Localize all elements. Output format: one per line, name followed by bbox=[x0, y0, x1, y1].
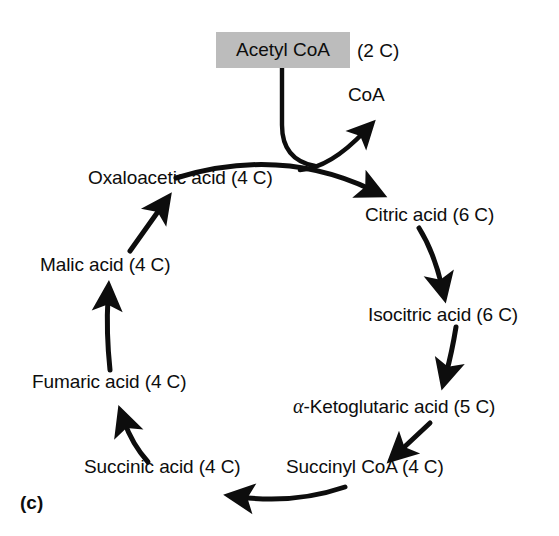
krebs-cycle-figure: Acetyl CoA (2 C) CoA Citric acid (6 C) I… bbox=[0, 0, 559, 536]
acetyl-coa-label: Acetyl CoA bbox=[216, 32, 350, 68]
acetyl-coa-box: Acetyl CoA bbox=[216, 32, 350, 68]
node-alpha-ketoglutaric-acid: α-Ketoglutaric acid (5 C) bbox=[293, 396, 495, 416]
node-alpha-ketoglutaric-acid-text: -Ketoglutaric acid (5 C) bbox=[303, 396, 495, 417]
node-oxaloacetic-acid: Oxaloacetic acid (4 C) bbox=[88, 168, 273, 187]
node-succinic-acid: Succinic acid (4 C) bbox=[84, 457, 240, 476]
arrow-citric-to-isocitric bbox=[419, 228, 442, 287]
arrow-fumaric-to-malic bbox=[107, 297, 110, 370]
node-isocitric-acid: Isocitric acid (6 C) bbox=[368, 305, 518, 324]
node-succinyl-coa: Succinyl CoA (4 C) bbox=[286, 457, 444, 476]
node-citric-acid: Citric acid (6 C) bbox=[365, 205, 494, 224]
node-fumaric-acid: Fumaric acid (4 C) bbox=[32, 372, 186, 391]
arrow-malic-to-oxaloacetic bbox=[130, 206, 162, 251]
panel-letter: (c) bbox=[20, 492, 43, 514]
arrow-acetylcoa-to-cycle bbox=[282, 68, 315, 166]
node-malic-acid: Malic acid (4 C) bbox=[40, 255, 170, 274]
acetyl-coa-carbon-count: (2 C) bbox=[357, 40, 399, 62]
arrow-succinylcoa-to-succinic bbox=[240, 487, 345, 499]
arrow-ketoglutaric-to-succinylcoa bbox=[399, 423, 430, 452]
coa-label: CoA bbox=[348, 85, 385, 104]
arrow-isocitric-to-ketoglutaric bbox=[446, 327, 456, 374]
alpha-symbol: α bbox=[293, 395, 303, 417]
